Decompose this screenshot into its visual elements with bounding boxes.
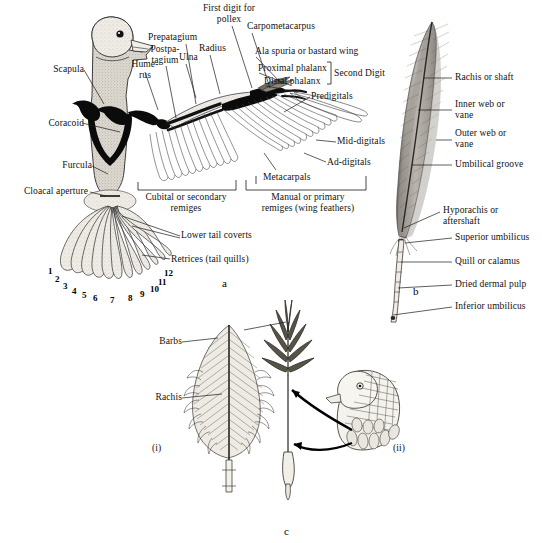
label-second-digit: Second Digit xyxy=(334,68,385,79)
label-barbs: Barbs xyxy=(140,336,182,347)
tail-number-7: 7 xyxy=(110,295,115,305)
tail-number-1: 1 xyxy=(48,266,53,276)
label-predigitals: Predigitals xyxy=(311,91,353,102)
label-rachis-panel-c: Rachis xyxy=(134,392,182,403)
panel-letter-a: a xyxy=(222,277,227,289)
filoplume-feather xyxy=(262,300,314,500)
label-coracoid: Coracoid xyxy=(14,118,84,129)
tail-number-12: 12 xyxy=(164,268,173,278)
label-carpometacarpus: Carpometacarpus xyxy=(247,21,315,32)
label-superior-umbilicus: Superior umbilicus xyxy=(455,232,529,243)
label-ala-spuria: Ala spuria or bastard wing xyxy=(255,46,358,57)
label-proximal-phalanx: Proximal phalanx xyxy=(258,63,327,74)
tail-number-4: 4 xyxy=(72,286,77,296)
label-mid-digitals: Mid-digitals xyxy=(337,136,385,147)
tail-number-6: 6 xyxy=(93,293,98,303)
label-metacarpals: Metacarpals xyxy=(263,172,311,183)
label-lower-tail-coverts: Lower tail coverts xyxy=(181,230,252,241)
bracket-label-cubital-remiges: Cubital or secondary remiges xyxy=(133,192,239,213)
tail-number-5: 5 xyxy=(82,290,87,300)
label-hyporachis: Hyporachis or aftershaft xyxy=(443,205,498,226)
label-distal-phalanx: Distal phalanx xyxy=(264,76,321,87)
subpanel-label-i: (i) xyxy=(152,443,161,454)
label-outer-web: Outer web or vane xyxy=(455,128,506,149)
tail-number-8: 8 xyxy=(128,293,133,303)
label-quill-or-calamus: Quill or calamus xyxy=(455,256,520,267)
tail-number-9: 9 xyxy=(140,289,145,299)
label-scapula: Scapula xyxy=(26,64,84,75)
label-rachis-or-shaft: Rachis or shaft xyxy=(455,72,514,83)
panel-letter-b: b xyxy=(413,285,419,297)
label-cloacal-aperture: Cloacal aperture xyxy=(2,186,88,197)
semiplume-feather xyxy=(184,325,274,492)
tail-number-3: 3 xyxy=(63,281,68,291)
subpanel-label-ii: (ii) xyxy=(393,443,405,454)
contour-feather xyxy=(390,22,449,322)
arrow-bird-to-semiplume xyxy=(292,390,352,430)
label-retrices: Retrices (tail quills) xyxy=(171,254,249,265)
label-inferior-umbilicus: Inferior umbilicus xyxy=(455,301,526,312)
bracket-label-manual-remiges: Manual or primary remiges (wing feathers… xyxy=(246,192,370,213)
pectoral-girdle-bones xyxy=(72,101,170,166)
tail-number-2: 2 xyxy=(55,274,60,284)
label-radius: Radius xyxy=(199,43,226,54)
label-inner-web: Inner web or vane xyxy=(455,99,505,120)
label-prepatagium: Prepatagium xyxy=(148,32,197,43)
secondary-remiges xyxy=(150,110,238,181)
label-ulna: Ulna xyxy=(179,52,198,63)
figure-plate: Scapula Coracoid Furcula Cloacal apertur… xyxy=(0,0,542,543)
label-ad-digitals: Ad-digitals xyxy=(327,157,371,168)
label-umbilical-groove: Umbilical groove xyxy=(455,159,523,170)
label-dried-dermal-pulp: Dried dermal pulp xyxy=(455,279,526,290)
label-furcula: Furcula xyxy=(36,160,92,171)
tail-number-11: 11 xyxy=(158,277,167,287)
panel-letter-c: c xyxy=(284,525,289,537)
arrow-bird-to-filoplume xyxy=(294,442,352,450)
bird-feather-tracts xyxy=(326,370,401,450)
